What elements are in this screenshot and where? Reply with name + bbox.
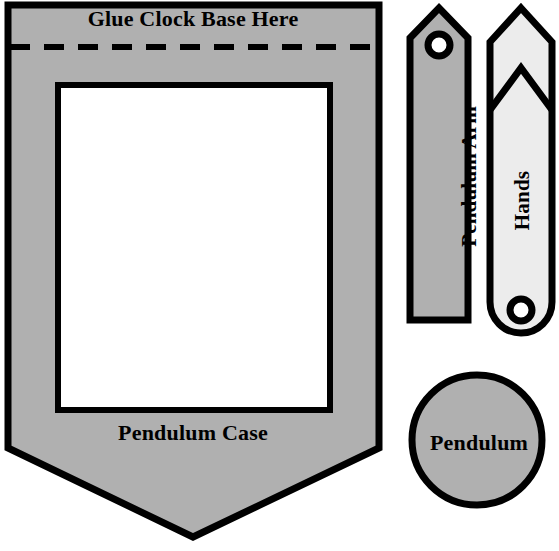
template-artwork: [0, 0, 559, 551]
hands-outline[interactable]: [490, 8, 552, 333]
pendulum-case-window[interactable]: [58, 85, 330, 410]
pendulum-arm-hole[interactable]: [428, 34, 450, 56]
pendulum-outline[interactable]: [412, 375, 542, 505]
template-sheet: Glue Clock Base Here Pendulum Case Pendu…: [0, 0, 559, 551]
hands-hole[interactable]: [510, 299, 532, 321]
